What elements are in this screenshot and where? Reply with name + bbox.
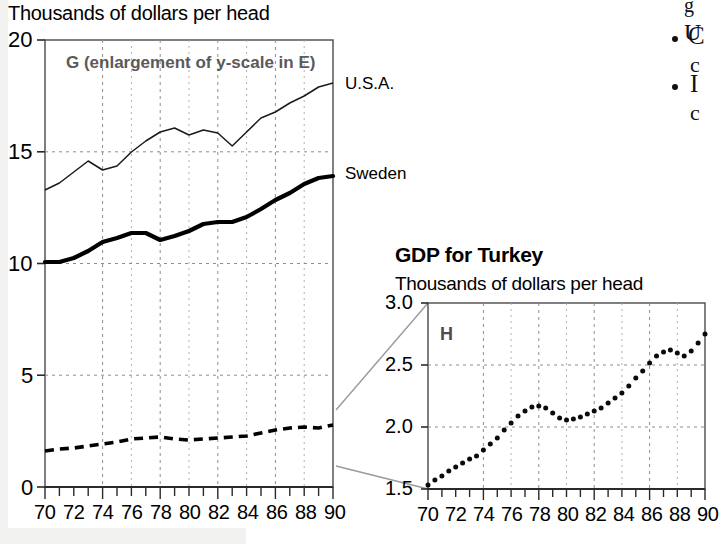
panel-h-xtick-82: 82 xyxy=(585,503,607,526)
panel-h-xtick-84: 84 xyxy=(613,503,635,526)
panel-h-xtick-78: 78 xyxy=(529,503,551,526)
panel-h-xtick-90: 90 xyxy=(697,503,719,526)
panel-h-inner-label: H xyxy=(440,324,453,344)
panel-h-xtick-72: 72 xyxy=(445,503,467,526)
panel-h-xtick-70: 70 xyxy=(417,503,439,526)
panel-h-y-ticks xyxy=(421,303,428,489)
panel-h-ytick-25: 2.5 xyxy=(385,353,413,376)
panel-h-xtick-labels: 70 72 74 76 78 80 82 84 86 88 90 xyxy=(428,503,705,531)
panel-h-xtick-74: 74 xyxy=(473,503,495,526)
panel-h-xtick-80: 80 xyxy=(557,503,579,526)
panel-h-ytick-20: 2.0 xyxy=(385,415,413,438)
panel-h-xtick-76: 76 xyxy=(501,503,523,526)
panel-h-xtick-88: 88 xyxy=(669,503,691,526)
panel-h-x-axis xyxy=(428,489,705,500)
panel-h-ytick-30: 3.0 xyxy=(385,291,413,314)
panel-h-ytick-15: 1.5 xyxy=(385,477,413,500)
panel-h-xtick-86: 86 xyxy=(641,503,663,526)
